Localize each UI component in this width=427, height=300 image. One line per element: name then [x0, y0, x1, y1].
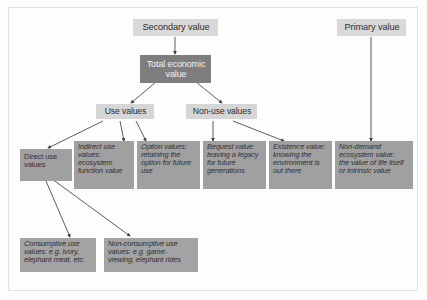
wire-root-to-nonuse [196, 82, 222, 103]
node-non-consumptive-use-values-label: Non-consumptive use values: e.g. game- v… [108, 240, 195, 264]
node-non-demand-ecosystem-value: Non-demand ecosystem value: the value of… [335, 141, 413, 189]
node-non-consumptive-use-values: Non-consumptive use values: e.g. game- v… [104, 238, 198, 272]
node-indirect-use-values-label: Indirect use values: ecosystem function … [78, 143, 131, 175]
node-bequest-value-label: Bequest value: leaving a legacy for futu… [207, 143, 263, 175]
node-consumptive-use-values: Consumptive use values: e.g. ivory, elep… [20, 238, 96, 272]
wire-use-to-option [136, 121, 146, 141]
node-secondary-value: Secondary value [133, 19, 218, 36]
node-non-use-values: Non-use values [186, 104, 257, 119]
node-direct-use-values-label: Direct use values [24, 153, 69, 169]
node-primary-value: Primary value [337, 19, 406, 36]
node-direct-use-values: Direct use values [20, 149, 72, 181]
node-existence-value-label: Existence value: knowing the environment… [273, 143, 329, 175]
diagram-canvas: Secondary value Primary value Total econ… [0, 0, 427, 300]
node-total-economic-value-label: Total economic value [144, 60, 208, 79]
node-non-demand-ecosystem-value-label: Non-demand ecosystem value: the value of… [339, 143, 410, 175]
node-total-economic-value: Total economic value [140, 55, 211, 83]
node-non-use-values-label: Non-use values [190, 107, 254, 116]
node-option-values-label: Option values: retaining the option for … [141, 143, 197, 175]
node-existence-value: Existence value: knowing the environment… [269, 141, 332, 189]
node-use-values-label: Use values [100, 107, 151, 116]
node-secondary-value-label: Secondary value [137, 23, 215, 33]
node-primary-value-label: Primary value [341, 23, 403, 33]
node-use-values: Use values [96, 104, 154, 119]
node-consumptive-use-values-label: Consumptive use values: e.g. ivory, elep… [24, 240, 93, 264]
wire-root-to-use [131, 82, 156, 103]
node-bequest-value: Bequest value: leaving a legacy for futu… [203, 141, 266, 189]
wire-use-to-indirect [120, 121, 124, 141]
wire-nonuse-to-existence [233, 121, 284, 141]
node-option-values: Option values: retaining the option for … [137, 141, 200, 189]
node-indirect-use-values: Indirect use values: ecosystem function … [74, 141, 134, 189]
